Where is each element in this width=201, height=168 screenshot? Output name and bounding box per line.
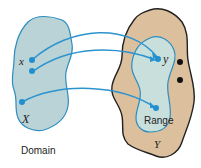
set-label-X: X: [22, 112, 29, 127]
element-label-y: y: [163, 52, 168, 67]
domain-point-1: [29, 57, 35, 63]
function-mapping-diagram: x X y Range Y Domain: [0, 0, 201, 168]
unmapped-point-2: [177, 77, 183, 83]
set-label-Y: Y: [154, 138, 160, 150]
range-point-y: [155, 56, 161, 62]
diagram-graphic: [0, 0, 201, 168]
unmapped-point-1: [177, 59, 183, 65]
range-point-2: [153, 105, 159, 111]
range-label: Range: [144, 115, 173, 126]
domain-point-2: [29, 68, 35, 74]
element-label-x: x: [19, 55, 24, 67]
domain-point-3: [19, 99, 25, 105]
domain-label: Domain: [21, 145, 55, 156]
